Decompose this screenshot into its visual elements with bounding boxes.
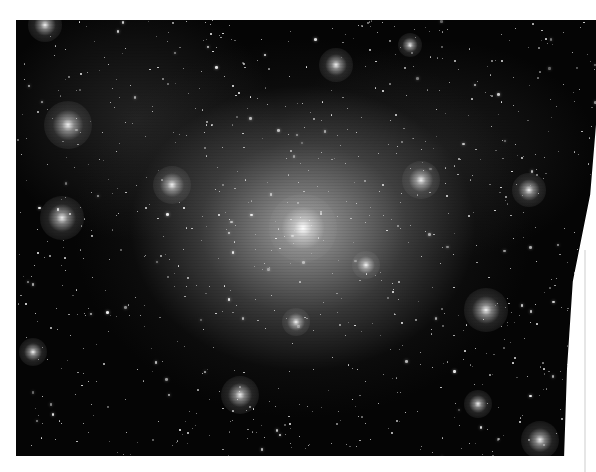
particle bbox=[587, 361, 590, 364]
particle bbox=[593, 442, 594, 443]
particle bbox=[591, 297, 592, 298]
particle bbox=[594, 400, 595, 401]
particle bbox=[568, 382, 570, 384]
particle bbox=[575, 307, 577, 309]
particle bbox=[571, 332, 574, 335]
simulation-image bbox=[16, 20, 596, 456]
particle bbox=[576, 423, 578, 425]
particle bbox=[586, 303, 588, 305]
particle bbox=[578, 431, 579, 432]
particle bbox=[571, 370, 572, 371]
particle bbox=[580, 384, 582, 386]
particle bbox=[569, 450, 571, 452]
particle bbox=[571, 380, 572, 381]
particle bbox=[567, 364, 569, 366]
particle bbox=[593, 373, 594, 374]
particle bbox=[579, 289, 580, 290]
particle bbox=[577, 264, 578, 265]
particle bbox=[594, 171, 595, 172]
particle bbox=[578, 395, 579, 396]
particle bbox=[590, 441, 592, 443]
particle bbox=[567, 380, 569, 382]
particle bbox=[571, 436, 572, 437]
scanline-texture bbox=[16, 20, 596, 456]
page-edge bbox=[584, 250, 586, 472]
